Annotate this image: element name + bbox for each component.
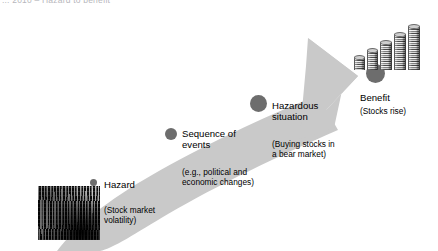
node-label-hazardous-situation: Hazardous situation xyxy=(272,100,318,123)
node-sublabel-hazard: (Stock market volatility) xyxy=(104,205,155,225)
coin-stack xyxy=(394,34,406,70)
stock-volatility-photo xyxy=(38,186,100,240)
node-dot-sequence-of-events[interactable] xyxy=(165,128,177,140)
node-sublabel-sequence-of-events: (e.g., political and economic changes) xyxy=(182,167,254,187)
node-dot-hazardous-situation[interactable] xyxy=(250,95,267,112)
coin-stack xyxy=(380,42,392,70)
node-sublabel-hazardous-situation: (Buying stocks in a bear market) xyxy=(272,139,335,159)
node-label-benefit: Benefit xyxy=(360,92,390,103)
stock-photo-shadow xyxy=(38,186,100,240)
node-dot-hazard[interactable] xyxy=(90,179,97,186)
coin-stack xyxy=(408,26,420,70)
node-label-sequence-of-events: Sequence of events xyxy=(182,128,236,151)
node-label-hazard: Hazard xyxy=(104,179,135,190)
diagram-canvas: ... 2010 – Hazard to benefit Hazard (Sto… xyxy=(0,0,438,251)
coin-stacks-photo xyxy=(352,22,422,70)
node-sublabel-benefit: (Stocks rise) xyxy=(360,106,406,116)
coin-stack xyxy=(354,57,365,70)
coin-stack xyxy=(367,50,378,70)
